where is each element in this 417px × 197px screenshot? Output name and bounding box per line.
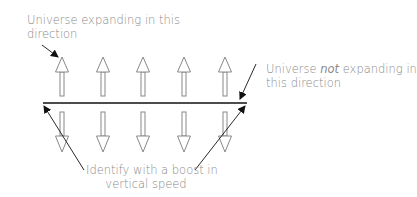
pointer-arrow-icon [240,64,256,99]
label-line: Identify with a boost in [86,163,206,177]
label-line: this direction [266,76,417,90]
label-universe-not-expanding: Universe not expanding in this direction [266,62,417,90]
down-arrow-icon [137,112,150,152]
up-arrow-icon [56,57,69,96]
label-line: Universe not expanding in [266,62,417,76]
label-emphasis: not [320,62,339,76]
label-line: direction [27,27,180,41]
down-arrow-icon [97,112,110,152]
up-arrow-icon [178,57,191,96]
label-line: Universe expanding in this [27,13,180,27]
up-arrow-icon [97,57,110,96]
label-line: vertical speed [86,177,206,191]
down-arrow-icon [56,112,69,152]
pointer-arrow-icon [195,106,245,170]
up-arrow-icon [219,57,232,96]
pointer-arrow-icon [42,45,58,57]
label-text: Universe [266,62,320,76]
label-boost-vertical-speed: Identify with a boost in vertical speed [86,163,206,191]
down-arrow-icon [178,112,191,152]
label-universe-expanding: Universe expanding in this direction [27,13,180,41]
down-arrows [56,112,232,152]
up-arrow-icon [137,57,150,96]
up-arrows [56,57,232,96]
label-text: expanding in [339,62,417,76]
